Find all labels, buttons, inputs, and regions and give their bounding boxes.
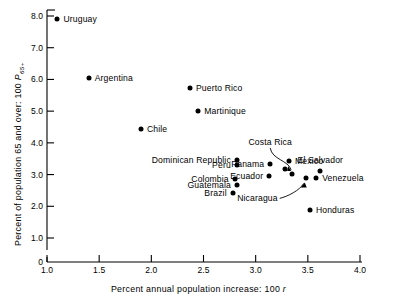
data-point[interactable] [187, 86, 192, 91]
data-point[interactable] [290, 171, 295, 176]
x-tick-label: 4.0 [354, 265, 366, 275]
data-point[interactable] [86, 75, 91, 80]
data-point-label: Nicaragua [237, 193, 278, 203]
data-point[interactable] [230, 190, 235, 195]
y-tick-label: 0 [0, 257, 43, 267]
x-tick-label: 2.5 [197, 265, 209, 275]
leader-arrow [301, 182, 307, 187]
data-point[interactable] [267, 174, 272, 179]
axis-lines [47, 10, 362, 262]
data-point[interactable] [307, 208, 312, 213]
x-tick-label: 1.5 [93, 265, 105, 275]
x-tick-label: 2.0 [145, 265, 157, 275]
data-point[interactable] [268, 162, 273, 167]
data-point-label: Costa Rica [248, 137, 292, 147]
x-tick-label: 3.0 [250, 265, 262, 275]
data-point[interactable] [282, 167, 287, 172]
data-point-label: Ecuador [230, 171, 263, 181]
data-point[interactable] [234, 183, 239, 188]
axes-layer [0, 0, 397, 304]
data-point-label: El Salvador [298, 155, 344, 165]
tick-marks [47, 16, 360, 262]
data-point[interactable] [314, 176, 319, 181]
data-point[interactable] [303, 176, 308, 181]
data-point-label: Martinique [204, 106, 246, 116]
y-tick-label: 7.0 [0, 43, 43, 53]
scatter-chart: 01.02.03.04.05.06.07.08.0 1.01.52.02.53.… [0, 0, 397, 304]
x-tick-label: 1.0 [41, 265, 53, 275]
x-tick-label: 3.5 [302, 265, 314, 275]
leader-line [280, 183, 304, 198]
data-point-label: Uruguay [63, 14, 97, 24]
plot-area: 01.02.03.04.05.06.07.08.0 1.01.52.02.53.… [0, 0, 397, 304]
y-tick-label: 8.0 [0, 11, 43, 21]
data-point-label: Peru [212, 160, 231, 170]
data-point-label: Brazil [204, 188, 226, 198]
data-point[interactable] [287, 159, 292, 164]
data-point-label: Argentina [95, 73, 133, 83]
data-point[interactable] [138, 126, 143, 131]
data-point[interactable] [196, 108, 201, 113]
x-axis-title: Percent annual population increase: 100 … [0, 284, 397, 294]
data-point-label: Honduras [316, 205, 354, 215]
data-point-label: Puerto Rico [196, 83, 243, 93]
y-axis-title: Percent of population 65 and over: 100 P… [13, 63, 25, 246]
data-point[interactable] [55, 17, 60, 22]
data-point-label: Panama [231, 159, 264, 169]
data-point-label: Chile [147, 124, 167, 134]
data-point-label: Venezuela [322, 173, 364, 183]
